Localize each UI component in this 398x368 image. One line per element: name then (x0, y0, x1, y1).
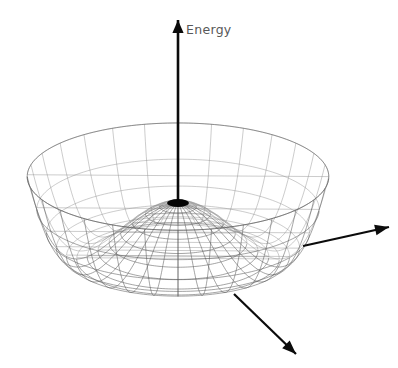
figure-canvas: Energy (0, 0, 398, 368)
peak-dot (167, 199, 189, 207)
right-arrow-icon (374, 225, 389, 236)
mexican-hat-potential-figure: Energy (0, 0, 398, 368)
mesh-line (178, 124, 211, 225)
energy-axis-label: Energy (186, 22, 232, 37)
up-arrow-icon (172, 20, 183, 33)
mesh-line (144, 124, 177, 225)
mesh-line (179, 153, 313, 243)
mesh-line (42, 153, 176, 243)
